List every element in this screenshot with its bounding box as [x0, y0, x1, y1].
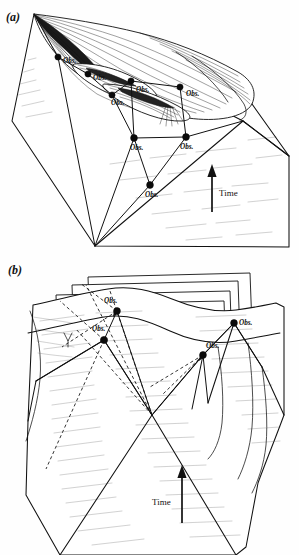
- observer-label: Obs.: [104, 297, 118, 305]
- observer-label: Obs.: [145, 191, 159, 199]
- observer-marker[interactable]: [114, 308, 121, 315]
- observer-label: Obs.: [180, 143, 194, 151]
- panel-a: (a): [0, 0, 299, 255]
- observer-marker[interactable]: [85, 71, 91, 77]
- observer-label: Obs.: [186, 90, 200, 98]
- observer-label: Obs.: [111, 99, 125, 107]
- panel-a-drawing: Obs. Obs. Obs. Obs. Obs. Obs. Obs. Obs.: [0, 0, 299, 255]
- observer-marker[interactable]: [109, 92, 115, 98]
- observer-marker[interactable]: [183, 134, 190, 141]
- observer-marker[interactable]: [131, 135, 138, 142]
- observer-label: Obs.: [92, 325, 106, 333]
- panel-b-front-surface: [26, 288, 284, 555]
- observer-marker[interactable]: [177, 84, 183, 90]
- panel-b: (b): [0, 255, 299, 555]
- observer-label: Obs.: [63, 57, 77, 65]
- figure-root: (a): [0, 0, 299, 555]
- observer-marker[interactable]: [100, 336, 107, 343]
- observer-marker[interactable]: [147, 182, 154, 189]
- observer-marker[interactable]: [200, 352, 207, 359]
- time-axis-label: Time: [219, 188, 238, 198]
- observer-label: Obs.: [130, 144, 144, 152]
- observer-label: Obs.: [206, 342, 220, 350]
- panel-b-drawing: Obs. Obs. Obs. Obs. Time: [0, 255, 299, 555]
- observer-label: Obs.: [239, 319, 253, 327]
- observer-marker[interactable]: [231, 320, 238, 327]
- observer-label: Obs.: [136, 86, 150, 94]
- observer-marker[interactable]: [128, 78, 134, 84]
- time-axis-label: Time: [152, 497, 171, 507]
- observer-label: Obs.: [93, 74, 107, 82]
- observer-marker[interactable]: [55, 54, 61, 60]
